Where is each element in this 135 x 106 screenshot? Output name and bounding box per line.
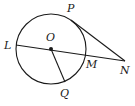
secant-line-ln	[16, 45, 125, 61]
label-o: O	[46, 31, 55, 44]
label-p: P	[66, 2, 75, 15]
label-m: M	[85, 58, 98, 71]
center-point-o	[49, 47, 53, 51]
radius-line-oq	[51, 49, 65, 82]
label-l: L	[3, 39, 11, 52]
geometry-diagram: P L O M N Q	[0, 0, 135, 106]
label-n: N	[119, 64, 130, 77]
label-q: Q	[60, 87, 69, 100]
tangent-line-pn	[71, 20, 125, 61]
